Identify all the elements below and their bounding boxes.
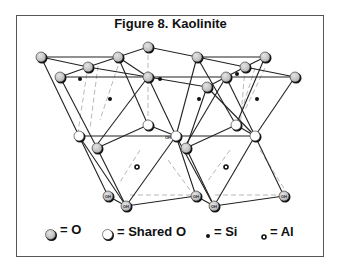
aluminum-atoms: [135, 165, 228, 169]
legend-label: = O: [60, 222, 81, 237]
small-dot-icon: [204, 232, 212, 240]
svg-text:OH: OH: [123, 204, 129, 209]
legend-label: = Shared O: [117, 224, 186, 239]
svg-text:OH: OH: [281, 194, 287, 199]
small-ring-icon: [260, 233, 268, 241]
legend: = O = Shared O = Si = Al: [0, 224, 341, 244]
legend-label: = Si: [214, 224, 238, 239]
legend-label: = Al: [270, 224, 294, 239]
svg-text:OH: OH: [193, 194, 199, 199]
svg-text:OH: OH: [211, 204, 217, 209]
svg-text:OH: OH: [105, 194, 111, 199]
white-sphere-icon: [101, 228, 115, 242]
grey-sphere-icon: [44, 228, 58, 242]
svg-text:OH: OH: [165, 135, 171, 140]
